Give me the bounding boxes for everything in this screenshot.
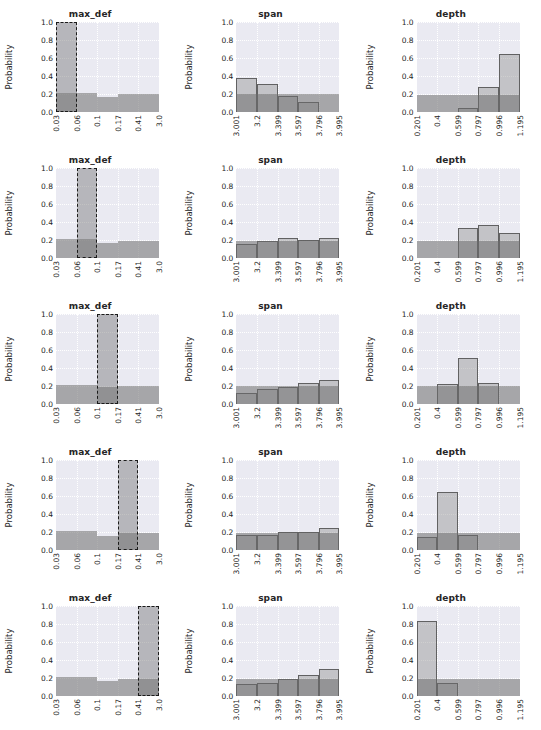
- x-tick-label: 0.797: [474, 699, 483, 720]
- prior-bar: [138, 94, 159, 112]
- x-tick-label: 1.195: [515, 553, 524, 574]
- y-tick-label: 1.0: [207, 164, 233, 173]
- prior-bar: [298, 94, 319, 112]
- y-tick-label: 0.0: [388, 108, 414, 117]
- y-tick-label: 0.2: [27, 528, 53, 537]
- y-tick-label: 0.6: [27, 54, 53, 63]
- x-tick-label: 0.17: [113, 699, 122, 716]
- bars-layer: [417, 168, 520, 258]
- x-tick-label: 0.4: [433, 553, 442, 565]
- y-tick-label: 0.4: [207, 72, 233, 81]
- prior-bar: [417, 386, 438, 404]
- y-axis-ticks: 0.00.20.40.60.81.0: [24, 460, 53, 550]
- y-tick-label: 1.0: [27, 602, 53, 611]
- x-tick-label: 0.797: [474, 407, 483, 428]
- x-tick-label: 0.06: [72, 407, 81, 424]
- x-tick-label: 3.001: [232, 261, 241, 282]
- y-tick-label: 0.6: [388, 346, 414, 355]
- panel-depth-row5: depthProbability0.00.20.40.60.81.00.2010…: [361, 584, 541, 730]
- y-tick-label: 1.0: [388, 602, 414, 611]
- prior-bar: [319, 241, 340, 258]
- x-axis-ticks: 0.2010.40.5990.7970.9961.195: [417, 696, 520, 730]
- x-tick-label: 0.41: [134, 115, 143, 132]
- plot-area: [236, 314, 339, 404]
- bars-layer: [56, 168, 159, 258]
- y-tick-label: 0.6: [27, 200, 53, 209]
- prior-bar: [97, 536, 118, 550]
- panel-span-row4: spanProbability0.00.20.40.60.81.03.0013.…: [180, 438, 360, 584]
- y-tick-label: 0.8: [27, 36, 53, 45]
- x-tick-label: 3.399: [273, 261, 282, 282]
- y-axis-label: Probability: [184, 314, 196, 404]
- x-tick-label: 0.1: [93, 261, 102, 273]
- prior-bar: [437, 533, 458, 550]
- plot-area: [56, 314, 159, 404]
- prior-bar: [138, 386, 159, 404]
- x-tick-label: 3.597: [294, 115, 303, 136]
- prior-bar: [118, 241, 139, 258]
- x-axis-ticks: 3.0013.23.3993.5973.7963.995: [236, 550, 339, 584]
- y-tick-label: 0.2: [388, 236, 414, 245]
- prior-bar: [56, 385, 77, 404]
- x-tick-label: 3.995: [335, 553, 344, 574]
- y-axis-label: Probability: [4, 314, 16, 404]
- selected-bin-highlight[interactable]: [56, 22, 77, 112]
- y-tick-label: 0.8: [27, 328, 53, 337]
- x-tick-label: 3.597: [294, 407, 303, 428]
- x-tick-label: 3.001: [232, 407, 241, 428]
- y-axis-label: Probability: [365, 606, 377, 696]
- y-axis-ticks: 0.00.20.40.60.81.0: [385, 460, 414, 550]
- selected-bin-highlight[interactable]: [138, 606, 159, 696]
- y-tick-label: 0.8: [388, 36, 414, 45]
- x-tick-label: 0.599: [453, 553, 462, 574]
- prior-bar: [278, 94, 299, 112]
- prior-bar: [417, 533, 438, 550]
- x-tick-label: 0.599: [453, 115, 462, 136]
- x-tick-label: 3.001: [232, 553, 241, 574]
- plot-area: [417, 314, 520, 404]
- prior-bar: [77, 93, 98, 112]
- prior-bar: [319, 533, 340, 550]
- x-axis-ticks: 3.0013.23.3993.5973.7963.995: [236, 696, 339, 730]
- prior-bar: [236, 94, 257, 112]
- prior-bar: [278, 241, 299, 258]
- x-tick-label: 0.201: [412, 261, 421, 282]
- x-tick-label: 3.796: [314, 553, 323, 574]
- selected-bin-highlight[interactable]: [97, 314, 118, 404]
- y-axis-ticks: 0.00.20.40.60.81.0: [204, 460, 233, 550]
- y-tick-label: 0.4: [27, 656, 53, 665]
- y-tick-label: 0.6: [27, 492, 53, 501]
- prior-bar: [437, 386, 458, 404]
- x-tick-label: 0.599: [453, 407, 462, 428]
- prior-bar: [298, 386, 319, 404]
- x-tick-label: 0.797: [474, 115, 483, 136]
- prior-bar: [236, 533, 257, 550]
- x-tick-label: 0.03: [52, 553, 61, 570]
- y-tick-label: 0.0: [27, 546, 53, 555]
- y-tick-label: 0.2: [388, 382, 414, 391]
- y-axis-label: Probability: [365, 22, 377, 112]
- x-tick-label: 0.06: [72, 699, 81, 716]
- y-tick-label: 0.6: [207, 200, 233, 209]
- x-tick-label: 0.201: [412, 699, 421, 720]
- panel-span-row1: spanProbability0.00.20.40.60.81.03.0013.…: [180, 0, 360, 146]
- x-tick-label: 3.796: [314, 699, 323, 720]
- selected-bin-highlight[interactable]: [118, 460, 139, 550]
- y-tick-label: 0.4: [388, 72, 414, 81]
- prior-bar: [319, 679, 340, 696]
- x-tick-label: 3.0: [155, 407, 164, 419]
- y-axis-ticks: 0.00.20.40.60.81.0: [385, 22, 414, 112]
- prior-bar: [437, 679, 458, 696]
- prior-bar: [499, 241, 520, 258]
- selected-bin-highlight[interactable]: [77, 168, 98, 258]
- x-axis-ticks: 0.030.060.10.170.413.0: [56, 550, 159, 584]
- x-tick-label: 0.201: [412, 115, 421, 136]
- x-tick-label: 1.195: [515, 407, 524, 428]
- prior-bar: [278, 386, 299, 404]
- prior-bar: [97, 681, 118, 696]
- prior-bar: [77, 677, 98, 696]
- prior-bar: [278, 533, 299, 550]
- plot-area: [236, 22, 339, 112]
- y-axis-label: Probability: [184, 22, 196, 112]
- y-tick-label: 0.6: [388, 200, 414, 209]
